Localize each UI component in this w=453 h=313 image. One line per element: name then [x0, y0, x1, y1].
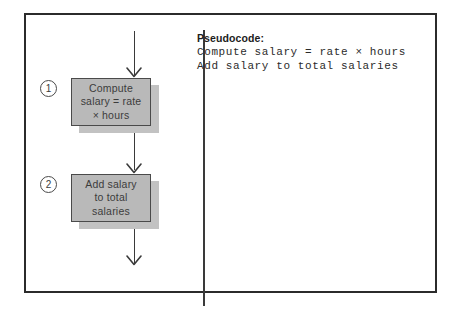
pseudocode-line-2: Add salary to total salaries: [197, 60, 432, 74]
pseudocode-line-1: Compute salary = rate × hours: [197, 46, 432, 60]
pseudocode-heading: Pseudocode:: [197, 32, 432, 44]
exit-arrowhead-icon: [126, 255, 142, 266]
between-steps-arrowhead-icon: [126, 163, 142, 174]
process-box-2[interactable]: Add salary to total salaries: [71, 174, 151, 222]
step-marker-2-label: 2: [46, 179, 52, 190]
process-box-2-label: Add salary to total salaries: [81, 178, 141, 219]
pseudocode-panel: Pseudocode: Compute salary = rate × hour…: [197, 32, 432, 73]
step-marker-1: 1: [40, 80, 57, 97]
step-marker-2: 2: [40, 176, 57, 193]
process-box-1[interactable]: Compute salary = rate × hours: [71, 78, 151, 126]
process-box-1-label: Compute salary = rate × hours: [77, 82, 146, 123]
figure-frame: Compute salary = rate × hours 1 Add sala…: [24, 13, 437, 293]
entry-arrowhead-icon: [126, 67, 142, 78]
step-marker-1-label: 1: [46, 83, 52, 94]
figure-canvas: Compute salary = rate × hours 1 Add sala…: [0, 0, 453, 313]
